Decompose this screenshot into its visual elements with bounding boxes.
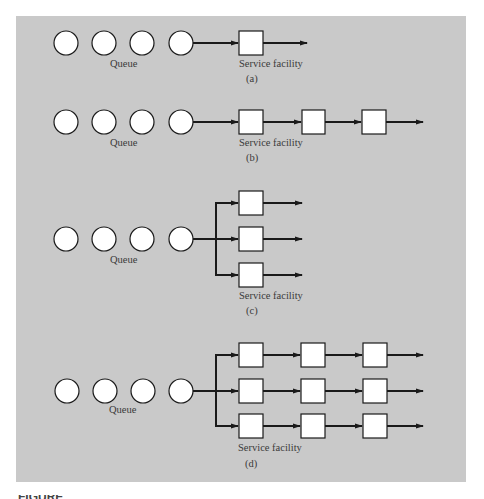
customer-circle (54, 110, 78, 134)
server-box (239, 110, 263, 134)
server-box (301, 379, 325, 403)
server-box (363, 414, 387, 438)
customer-circle (169, 379, 193, 403)
queue-label-c: Queue (110, 254, 137, 265)
customer-circle (93, 379, 117, 403)
queue-label-d: Queue (109, 404, 136, 415)
customer-circle (169, 31, 193, 55)
customer-circle (54, 31, 78, 55)
server-box (302, 110, 325, 134)
figure-d (55, 343, 423, 438)
service-facility-label-c: Service facility (239, 290, 303, 301)
customer-circle (131, 379, 155, 403)
customer-circle (54, 227, 78, 251)
caption-d: (d) (245, 458, 257, 469)
queue-b (54, 110, 193, 134)
caption-c: (c) (246, 305, 258, 316)
server-box (239, 227, 263, 251)
figure-caption: FIGURE (18, 495, 63, 499)
customer-circle (130, 227, 154, 251)
queue-c (54, 227, 193, 251)
customer-circle (55, 379, 79, 403)
customer-circle (169, 110, 193, 134)
server-box (239, 343, 263, 367)
queue-label-a: Queue (110, 58, 137, 69)
server-box (239, 31, 263, 55)
figure-b (54, 110, 423, 134)
server-box (301, 414, 325, 438)
server-box (363, 343, 387, 367)
customer-circle (130, 31, 154, 55)
service-facility-label-a: Service facility (239, 58, 303, 69)
server-box (363, 379, 387, 403)
server-box (239, 263, 263, 287)
queue-label-b: Queue (110, 137, 137, 148)
customer-circle (130, 110, 154, 134)
server-box (301, 343, 325, 367)
server-box (239, 191, 263, 215)
server-box (362, 110, 386, 134)
customer-circle (92, 110, 116, 134)
customer-circle (92, 31, 116, 55)
figure-c (54, 191, 302, 287)
service-facility-label-d: Service facility (238, 442, 302, 453)
queue-diagram (0, 0, 484, 499)
queue-d (55, 379, 193, 403)
server-box (239, 379, 263, 403)
service-facility-label-b: Service facility (239, 137, 303, 148)
server-box (239, 414, 263, 438)
customer-circle (92, 227, 116, 251)
caption-b: (b) (246, 152, 258, 163)
caption-a: (a) (246, 73, 258, 84)
figure-a (54, 31, 307, 55)
queue-a (54, 31, 193, 55)
customer-circle (169, 227, 193, 251)
